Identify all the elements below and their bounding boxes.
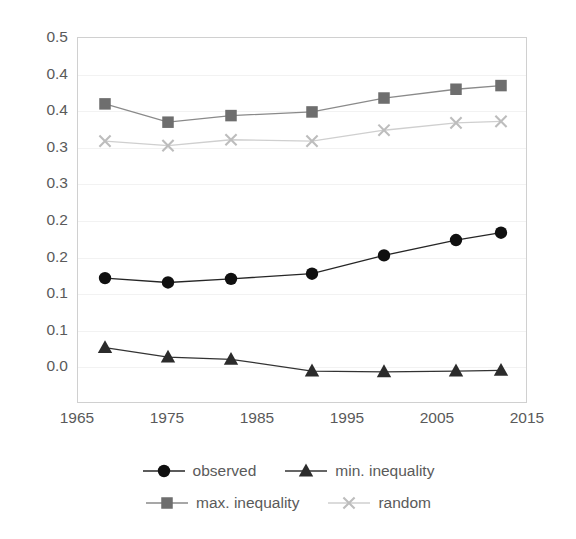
data-point [224,352,238,365]
data-point [162,116,174,128]
line-chart: 0.50.40.40.30.30.20.20.10.10.0 196519751… [0,0,576,539]
legend-label: min. inequality [335,463,434,479]
plot-area [77,37,527,403]
series-line [105,233,501,283]
y-tick-label: 0.4 [8,102,68,118]
data-point [450,83,462,95]
legend-item-random[interactable]: random [327,494,431,512]
square-marker-icon [145,494,189,512]
y-tick-label: 0.2 [8,249,68,265]
data-point [378,249,390,261]
chart-legend: observed min. inequality max. inequality… [0,455,576,519]
legend-label: max. inequality [196,495,299,511]
data-point [99,272,111,284]
data-point [225,273,237,285]
series-observed [99,227,507,289]
legend-label: observed [193,463,257,479]
legend-row-2: max. inequality random [0,487,576,519]
x-marker-icon [327,494,371,512]
legend-item-max-inequality[interactable]: max. inequality [145,494,299,512]
data-point [494,363,508,376]
data-point [306,106,318,118]
legend-item-observed[interactable]: observed [142,462,257,480]
y-tick-label: 0.1 [8,322,68,338]
y-tick-label: 0.5 [8,29,68,45]
data-point [449,364,463,377]
y-tick-label: 0.2 [8,212,68,228]
data-point [162,276,174,288]
data-layer [78,38,528,404]
y-tick-label: 0.3 [8,139,68,155]
series-max-inequality [99,80,507,128]
x-tick-label: 1975 [137,410,197,426]
data-point [495,80,507,92]
data-point [225,110,237,122]
x-tick-label: 1965 [47,410,107,426]
data-point [377,364,391,377]
legend-label: random [378,495,431,511]
y-tick-label: 0.4 [8,66,68,82]
series-min-inequality [98,340,508,377]
data-point [495,227,507,239]
x-tick-label: 2005 [407,410,467,426]
data-point [450,234,462,246]
x-tick-label: 1985 [227,410,287,426]
y-tick-label: 0.0 [8,359,68,375]
data-point [99,98,111,110]
data-point [98,340,112,353]
series-random [99,116,506,151]
triangle-marker-icon [284,462,328,480]
y-tick-label: 0.3 [8,176,68,192]
data-point [306,268,318,280]
legend-item-min-inequality[interactable]: min. inequality [284,462,434,480]
legend-row-1: observed min. inequality [0,455,576,487]
y-tick-label: 0.1 [8,285,68,301]
data-point [378,92,390,104]
x-tick-label: 2015 [497,410,557,426]
x-tick-label: 1995 [317,410,377,426]
circle-marker-icon [142,462,186,480]
